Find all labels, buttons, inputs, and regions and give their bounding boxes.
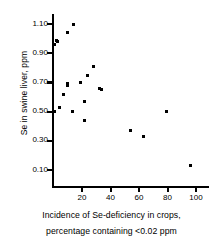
x-axis-tick: [167, 188, 169, 192]
plot-area: 0.100.300.500.700.901.1020406080100: [0, 0, 223, 200]
data-point: [86, 74, 89, 77]
x-axis-tick-label: 100: [181, 194, 211, 202]
data-point: [66, 31, 69, 34]
data-point: [129, 129, 132, 132]
y-axis-tick-label: 0.70: [18, 78, 48, 86]
x-axis-title-line1: Incidence of Se-deficiency in crops,: [0, 207, 223, 223]
y-axis-tick-label: 0.10: [18, 166, 48, 174]
data-point: [62, 93, 65, 96]
data-point: [71, 110, 74, 113]
data-point: [53, 43, 56, 46]
x-axis-line: [52, 186, 209, 188]
y-axis-tick-label: 0.90: [18, 49, 48, 57]
data-point: [189, 164, 192, 167]
x-axis-tick-label: 60: [124, 194, 154, 202]
data-point: [100, 88, 103, 91]
y-axis-tick-label: 1.10: [18, 20, 48, 28]
data-point: [165, 110, 168, 113]
x-axis-tick: [110, 188, 112, 192]
scatter-chart-figure: Se in swine liver, ppm 0.100.300.500.700…: [0, 0, 223, 246]
data-point: [83, 100, 86, 103]
data-point: [72, 23, 75, 26]
data-point: [142, 135, 145, 138]
x-axis-tick: [195, 188, 197, 192]
x-axis-tick-label: 20: [67, 194, 97, 202]
data-point: [53, 110, 56, 113]
x-axis-tick-label: 40: [96, 194, 126, 202]
data-point: [92, 65, 95, 68]
data-point: [58, 106, 61, 109]
x-axis-tick-label: 80: [153, 194, 183, 202]
y-axis-tick-label: 0.30: [18, 136, 48, 144]
x-axis-title-line2: percentage containing <0.02 ppm: [0, 223, 223, 239]
x-axis-title: Incidence of Se-deficiency in crops, per…: [0, 207, 223, 239]
data-point: [79, 81, 82, 84]
x-axis-tick: [81, 188, 83, 192]
x-axis-tick: [138, 188, 140, 192]
y-axis-tick-label: 0.50: [18, 107, 48, 115]
data-point: [66, 84, 69, 87]
data-point: [83, 119, 86, 122]
